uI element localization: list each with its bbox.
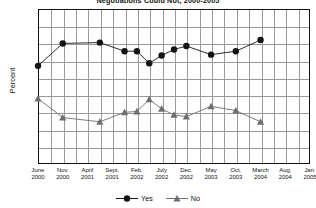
data-point-yes — [35, 63, 41, 69]
data-point-yes — [208, 51, 214, 57]
data-point-no — [207, 103, 214, 110]
legend-label: Yes — [141, 195, 153, 202]
chart-title: Negotiations Could Not, 2000-2005 — [0, 0, 316, 5]
data-point-yes — [121, 48, 127, 54]
data-point-no — [257, 118, 264, 125]
data-point-no — [146, 96, 153, 103]
circle-marker-icon — [116, 194, 138, 203]
data-point-yes — [183, 43, 189, 49]
line-chart: Negotiations Could Not, 2000-2005 Percen… — [0, 0, 316, 208]
data-point-yes — [146, 60, 152, 66]
data-point-yes — [134, 48, 140, 54]
data-point-yes — [97, 39, 103, 45]
data-point-yes — [257, 37, 263, 43]
y-axis-title: Percent — [8, 51, 17, 111]
legend-item-no[interactable]: No — [166, 194, 200, 203]
legend-label: No — [191, 195, 200, 202]
chart-legend: YesNo — [0, 194, 316, 203]
data-point-no — [158, 105, 165, 112]
data-point-no — [170, 111, 177, 118]
x-axis-tick-label: Jan.2005 — [293, 167, 316, 180]
data-point-yes — [171, 46, 177, 52]
data-point-no — [59, 114, 66, 121]
data-point-yes — [233, 48, 239, 54]
data-point-yes — [60, 40, 66, 46]
series-layer — [38, 9, 310, 164]
data-point-yes — [158, 52, 164, 58]
triangle-marker-icon — [166, 194, 188, 203]
data-point-no — [34, 95, 41, 102]
legend-item-yes[interactable]: Yes — [116, 194, 153, 203]
